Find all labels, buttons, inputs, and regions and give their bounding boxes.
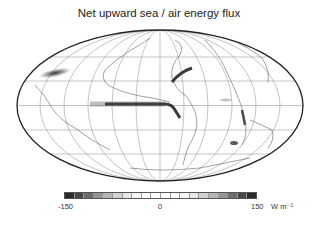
colorbar-cell: [228, 193, 238, 198]
colorbar-max-label: 150: [251, 202, 264, 211]
kuroshio-streak: [39, 66, 72, 80]
colorbar-cell: [142, 193, 152, 198]
colorbar-cell: [84, 193, 94, 198]
colorbar: [64, 192, 257, 199]
colorbar-cell: [151, 193, 161, 198]
colorbar-cell: [113, 193, 123, 198]
colorbar-cell: [123, 193, 133, 198]
colorbar-cell: [247, 193, 256, 198]
colorbar-cell: [238, 193, 248, 198]
colorbar-mid-label: 0: [158, 202, 162, 211]
colorbar-cell: [171, 193, 181, 198]
colorbar-cell: [132, 193, 142, 198]
colorbar-cell: [219, 193, 229, 198]
colorbar-min-label: -150: [58, 202, 73, 211]
colorbar-units: W m⁻²: [271, 202, 293, 211]
colorbar-cell: [180, 193, 190, 198]
colorbar-cell: [209, 193, 219, 198]
colorbar-cell: [94, 193, 104, 198]
colorbar-cell: [190, 193, 200, 198]
colorbar-cell: [75, 193, 85, 198]
colorbar-cell: [199, 193, 209, 198]
colorbar-cell: [161, 193, 171, 198]
colorbar-cell: [103, 193, 113, 198]
colorbar-cell: [65, 193, 75, 198]
